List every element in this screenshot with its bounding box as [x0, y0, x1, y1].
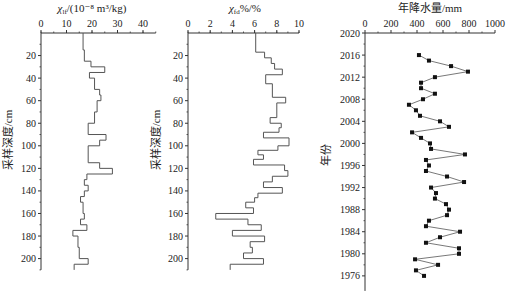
y-tick-label: 1996 — [340, 160, 360, 171]
data-point-marker — [422, 274, 426, 278]
data-point-marker — [427, 59, 431, 63]
y-tick-label: 2000 — [340, 138, 360, 149]
y-tick-label: 80 — [173, 118, 183, 129]
y-tick-label: 60 — [26, 95, 36, 106]
data-point-marker — [427, 163, 431, 167]
data-point-marker — [433, 75, 437, 79]
data-point-marker — [457, 246, 461, 250]
y-tick-label: 180 — [168, 231, 183, 242]
x-tick-label: 20 — [87, 18, 97, 29]
data-point-marker — [444, 202, 448, 206]
y-tick-label: 1976 — [340, 270, 360, 281]
x-tick-label: 2 — [208, 18, 213, 29]
y-tick-label: 140 — [21, 185, 36, 196]
data-point-marker — [457, 252, 461, 256]
x-tick-label: 30 — [113, 18, 123, 29]
data-point-marker — [445, 213, 449, 217]
data-point-marker — [419, 136, 423, 140]
y-tick-label: 2004 — [340, 116, 360, 127]
data-point-marker — [433, 92, 437, 96]
data-point-marker — [429, 147, 433, 151]
data-point-marker — [424, 158, 428, 162]
data-point-marker — [427, 219, 431, 223]
y-tick-label: 40 — [26, 73, 36, 84]
y-tick-label: 2008 — [340, 94, 360, 105]
y-tick-label: 20 — [173, 50, 183, 61]
data-point-marker — [438, 119, 442, 123]
panel1-ylabel: 采样深度/cm — [1, 109, 14, 170]
data-point-marker — [417, 53, 421, 57]
x-tick-label: 4 — [230, 18, 235, 29]
figure: χlf/(10⁻⁸ m³/kg) 采样深度/cm 010203040204060… — [0, 0, 511, 296]
x-tick-label: 0 — [186, 18, 191, 29]
data-point-marker — [419, 81, 423, 85]
x-tick-label: 400 — [410, 18, 425, 29]
data-point-marker — [445, 175, 449, 179]
data-point-marker — [429, 186, 433, 190]
panel1-axes: 01020304020406080100120140160180200 — [21, 18, 156, 270]
data-point-marker — [424, 224, 428, 228]
data-point-marker — [458, 230, 462, 234]
data-point-marker — [436, 263, 440, 267]
y-tick-label: 100 — [168, 140, 183, 151]
x-tick-label: 0 — [363, 18, 368, 29]
x-tick-label: 6 — [252, 18, 257, 29]
x-tick-label: 10 — [62, 18, 72, 29]
y-tick-label: 1992 — [340, 182, 360, 193]
panel1-xlabel: χlf/(10⁻⁸ m³/kg) — [57, 2, 127, 16]
data-point-marker — [424, 241, 428, 245]
panel3-ylabel: 年份 — [319, 144, 332, 166]
y-tick-label: 120 — [168, 163, 183, 174]
x-tick-label: 200 — [384, 18, 399, 29]
y-tick-label: 200 — [21, 253, 36, 264]
y-tick-label: 2012 — [340, 72, 360, 83]
panel3-markers — [407, 53, 470, 278]
y-tick-label: 160 — [21, 208, 36, 219]
x-tick-label: 8 — [274, 18, 279, 29]
panel3-xlabel: 年降水量/mm — [398, 1, 463, 14]
data-point-marker — [424, 169, 428, 173]
y-tick-label: 1988 — [340, 204, 360, 215]
panel-frequency-dependent-susceptibility: χfd%/% 采样深度/cm 0246810204060801001201401… — [149, 2, 304, 270]
y-tick-label: 1984 — [340, 226, 360, 237]
data-point-marker — [438, 235, 442, 239]
x-tick-label: 800 — [462, 18, 477, 29]
data-point-marker — [410, 130, 414, 134]
data-point-marker — [463, 152, 467, 156]
data-point-marker — [419, 86, 423, 90]
data-point-marker — [434, 191, 438, 195]
data-point-marker — [447, 125, 451, 129]
data-point-marker — [462, 180, 466, 184]
y-tick-label: 80 — [26, 118, 36, 129]
y-tick-label: 180 — [21, 231, 36, 242]
y-tick-label: 20 — [26, 50, 36, 61]
x-tick-label: 40 — [138, 18, 148, 29]
data-point-marker — [414, 268, 418, 272]
x-tick-label: 10 — [294, 18, 304, 29]
data-point-marker — [421, 97, 425, 101]
data-point-marker — [407, 103, 411, 107]
x-tick-label: 0 — [39, 18, 44, 29]
panel3-axes: 0200400600800100020202016201220082004200… — [340, 18, 505, 291]
y-tick-label: 200 — [168, 253, 183, 264]
x-tick-label: 600 — [436, 18, 451, 29]
panel3-precipitation-line — [409, 55, 468, 276]
panel-magnetic-susceptibility: χlf/(10⁻⁸ m³/kg) 采样深度/cm 010203040204060… — [1, 2, 156, 270]
data-point-marker — [433, 197, 437, 201]
panel2-axes: 024681020406080100120140160180200 — [168, 18, 304, 270]
data-point-marker — [418, 114, 422, 118]
data-point-marker — [428, 141, 432, 145]
data-point-marker — [449, 64, 453, 68]
y-tick-label: 2020 — [340, 28, 360, 39]
panel-annual-precipitation: 年降水量/mm 年份 02004006008001000202020162012… — [319, 1, 505, 291]
data-point-marker — [466, 70, 470, 74]
data-point-marker — [414, 108, 418, 112]
y-tick-label: 140 — [168, 185, 183, 196]
x-tick-label: 1000 — [485, 18, 505, 29]
y-tick-label: 40 — [173, 73, 183, 84]
data-point-marker — [413, 257, 417, 261]
y-tick-label: 2016 — [340, 50, 360, 61]
panel2-xlabel: χfd%/% — [228, 2, 261, 16]
y-tick-label: 100 — [21, 140, 36, 151]
y-tick-label: 60 — [173, 95, 183, 106]
